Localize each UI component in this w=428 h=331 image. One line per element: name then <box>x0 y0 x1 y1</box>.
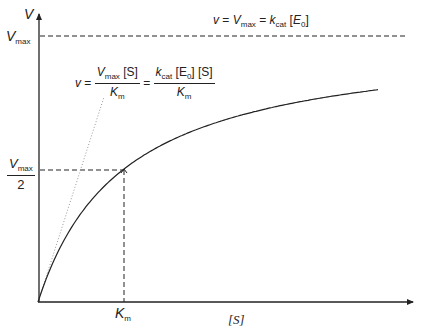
vmax-label: Vmax <box>6 29 30 46</box>
km-label: Km <box>115 306 131 323</box>
michaelis-menten-curve <box>38 90 378 302</box>
initial-slope-equation: v = Vmax [S] Km = kcat [E0] [S] Km <box>75 66 215 101</box>
kinetics-plot <box>0 0 428 331</box>
asymptote-equation: v = Vmax = kcat [E0] <box>213 14 309 29</box>
y-axis-label: V <box>24 7 33 21</box>
x-axis-label: [S] <box>228 313 245 326</box>
initial-slope-line <box>38 97 104 302</box>
half-vmax-label: Vmax 2 <box>7 157 35 191</box>
